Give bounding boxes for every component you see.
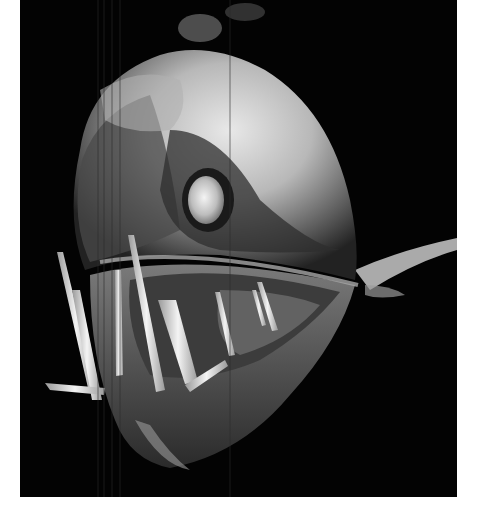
pectoral-fin <box>355 238 457 290</box>
eye-icon <box>188 176 224 224</box>
photograph: Close-up photograph of a deep-sea fish h… <box>20 0 457 497</box>
dorsal-fin-blur <box>178 14 222 42</box>
fish-illustration <box>20 0 457 497</box>
